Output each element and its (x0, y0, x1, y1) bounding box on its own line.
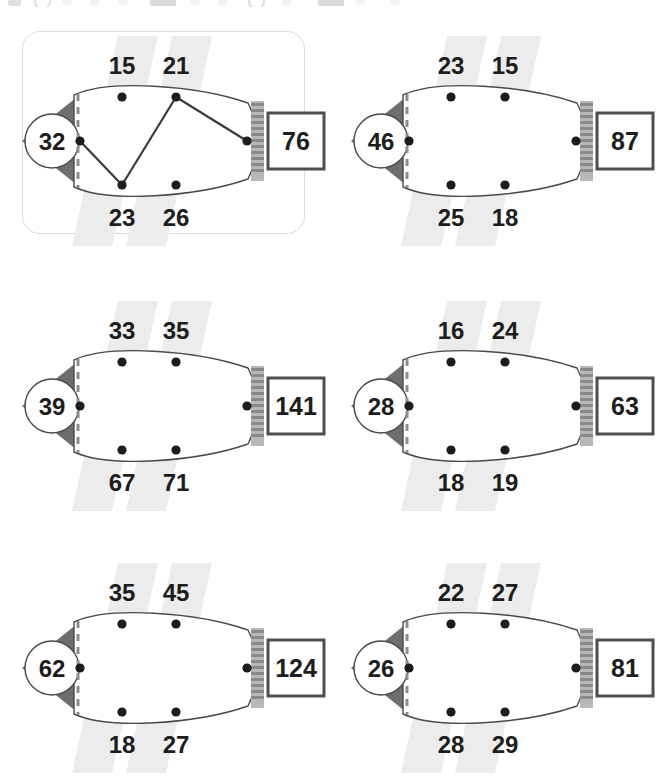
fish-body-shape (403, 613, 585, 724)
bottom-label-2: 29 (492, 731, 519, 758)
node-head-dot[interactable] (75, 663, 84, 672)
puzzle-cell: 286316241819 (329, 283, 658, 528)
node-bottom-left-dot[interactable] (446, 707, 455, 716)
answer-value: 124 (275, 654, 317, 682)
node-head-dot[interactable] (404, 663, 413, 672)
bottom-label-2: 26 (163, 204, 190, 231)
node-head-dot[interactable] (75, 136, 84, 145)
node-bottom-right-dot[interactable] (500, 180, 509, 189)
node-top-left-dot[interactable] (117, 357, 126, 366)
node-top-right-dot[interactable] (171, 92, 180, 101)
node-tail-dot[interactable] (242, 663, 251, 672)
bottom-label-1: 28 (438, 731, 465, 758)
fish-diagram: 327615212326 (0, 18, 329, 263)
answer-value: 63 (611, 392, 639, 420)
puzzle-cell: 468723152518 (329, 18, 658, 263)
node-top-right-dot[interactable] (500, 357, 509, 366)
bottom-label-1: 18 (109, 731, 136, 758)
node-top-left-dot[interactable] (446, 92, 455, 101)
answer-value: 81 (611, 654, 639, 682)
head-value: 28 (368, 393, 395, 420)
head-value: 46 (368, 128, 395, 155)
head-value: 26 (368, 655, 395, 682)
node-tail-dot[interactable] (242, 136, 251, 145)
top-label-2: 15 (492, 52, 519, 79)
node-bottom-left-dot[interactable] (117, 180, 126, 189)
top-label-2: 24 (492, 317, 519, 344)
puzzle-cell: 6212435451827 (0, 545, 329, 777)
head-value: 62 (39, 655, 66, 682)
node-top-left-dot[interactable] (446, 619, 455, 628)
node-bottom-right-dot[interactable] (171, 445, 180, 454)
tail-connector (580, 366, 593, 446)
node-bottom-right-dot[interactable] (500, 445, 509, 454)
top-label-1: 35 (109, 579, 136, 606)
node-bottom-right-dot[interactable] (500, 707, 509, 716)
fish-body-shape (74, 351, 256, 462)
top-label-1: 23 (438, 52, 465, 79)
top-label-2: 45 (163, 579, 190, 606)
bottom-label-2: 19 (492, 469, 519, 496)
tail-connector (580, 101, 593, 181)
node-tail-dot[interactable] (571, 401, 580, 410)
fish-body-shape (403, 86, 585, 197)
fish-diagram: 3914133356771 (0, 283, 329, 528)
node-top-left-dot[interactable] (117, 619, 126, 628)
puzzle-cell: 327615212326 (0, 18, 329, 263)
tail-connector (251, 628, 264, 708)
fish-diagram: 468723152518 (329, 18, 658, 263)
puzzle-cell: 3914133356771 (0, 283, 329, 528)
node-bottom-left-dot[interactable] (117, 445, 126, 454)
node-tail-dot[interactable] (571, 663, 580, 672)
tail-connector (251, 101, 264, 181)
node-top-right-dot[interactable] (500, 92, 509, 101)
head-value: 32 (39, 128, 66, 155)
node-tail-dot[interactable] (242, 401, 251, 410)
top-label-2: 21 (163, 52, 190, 79)
node-head-dot[interactable] (404, 136, 413, 145)
top-label-1: 33 (109, 317, 136, 344)
answer-value: 76 (282, 127, 310, 155)
answer-value: 87 (611, 127, 639, 155)
fish-diagram: 286316241819 (329, 283, 658, 528)
node-top-left-dot[interactable] (117, 92, 126, 101)
tail-connector (580, 628, 593, 708)
bottom-label-1: 67 (109, 469, 136, 496)
top-label-2: 27 (492, 579, 519, 606)
answer-value: 141 (275, 392, 317, 420)
node-top-right-dot[interactable] (500, 619, 509, 628)
fish-body-shape (74, 86, 256, 197)
node-bottom-left-dot[interactable] (446, 445, 455, 454)
fish-body-shape (403, 351, 585, 462)
top-label-1: 15 (109, 52, 136, 79)
top-label-1: 16 (438, 317, 465, 344)
node-tail-dot[interactable] (571, 136, 580, 145)
bottom-label-1: 18 (438, 469, 465, 496)
fish-body-shape (74, 613, 256, 724)
head-value: 39 (39, 393, 66, 420)
top-label-1: 22 (438, 579, 465, 606)
node-bottom-right-dot[interactable] (171, 707, 180, 716)
node-bottom-left-dot[interactable] (446, 180, 455, 189)
node-head-dot[interactable] (75, 401, 84, 410)
tail-connector (251, 366, 264, 446)
bottom-label-2: 18 (492, 204, 519, 231)
bottom-label-2: 27 (163, 731, 190, 758)
puzzle-cell: 268122272829 (329, 545, 658, 777)
node-head-dot[interactable] (404, 401, 413, 410)
top-label-2: 35 (163, 317, 190, 344)
node-top-right-dot[interactable] (171, 357, 180, 366)
node-bottom-right-dot[interactable] (171, 180, 180, 189)
fish-diagram: 268122272829 (329, 545, 658, 777)
bottom-label-1: 23 (109, 204, 136, 231)
fish-diagram: 6212435451827 (0, 545, 329, 777)
bottom-label-2: 71 (163, 469, 190, 496)
node-top-right-dot[interactable] (171, 619, 180, 628)
node-bottom-left-dot[interactable] (117, 707, 126, 716)
bottom-label-1: 25 (438, 204, 465, 231)
node-top-left-dot[interactable] (446, 357, 455, 366)
